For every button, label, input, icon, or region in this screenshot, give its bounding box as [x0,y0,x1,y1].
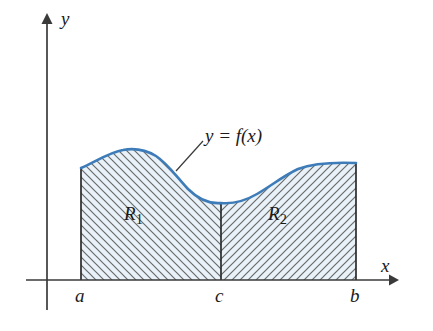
region-label-r2: R2 [268,204,287,227]
region-label-r1-subscript: 1 [136,212,143,227]
area-under-curve-diagram [0,0,433,331]
y-axis-label: y [61,9,69,28]
region-r1-shape [81,149,221,280]
y-axis-arrowhead [42,13,53,24]
region-label-r1-letter: R [124,203,136,224]
curve-label-leader-line [176,141,203,171]
figure-container: y x a c b y = f(x) R1 R2 [0,0,433,331]
region-r2-shape [221,163,356,280]
region-label-r2-subscript: 2 [280,212,287,227]
x-axis-arrowhead [389,275,399,286]
curve-equation-label: y = f(x) [205,126,262,145]
tick-label-a: a [75,286,85,305]
region-label-r1: R1 [124,204,143,227]
x-axis-label: x [381,256,389,275]
tick-label-b: b [350,286,360,305]
tick-label-c: c [215,286,223,305]
region-label-r2-letter: R [268,203,280,224]
